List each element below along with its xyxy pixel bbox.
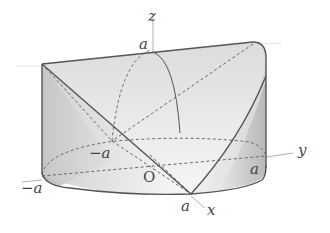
z-top-a-label: a: [139, 37, 148, 52]
top-right-guide: [262, 43, 282, 44]
origin-label: O: [143, 170, 155, 185]
neg-a-inner-label: −a: [89, 146, 111, 161]
half-cylinder-figure: [0, 0, 330, 233]
y-axis-right: [266, 153, 293, 157]
neg-a-outer-label: −a: [21, 181, 43, 196]
a-x-label: a: [181, 199, 190, 214]
y-axis-label: y: [298, 143, 306, 158]
x-axis-label: x: [207, 203, 215, 218]
a-y-label: a: [250, 162, 259, 177]
z-axis-label: z: [148, 9, 156, 24]
x-axis: [191, 196, 205, 208]
diagram-canvas: z a −a O −a a y a x: [0, 0, 330, 233]
